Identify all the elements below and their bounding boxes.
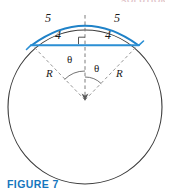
- right-angle-marker: [79, 37, 86, 44]
- geometry-diagram: [0, 0, 170, 194]
- figure-container: SOLUTION 5 5 4 4 θ θ R R FIGURE 7: [0, 0, 170, 194]
- main-circle: [8, 30, 162, 184]
- angle-arc-left: [65, 71, 86, 80]
- radius-line-right: [85, 45, 138, 100]
- chord-label-left: 4: [55, 29, 61, 41]
- theta-label-left: θ: [67, 54, 72, 65]
- chord-endpoint-tick-left: [27, 45, 32, 49]
- angle-arc-right: [85, 77, 101, 84]
- theta-label-right: θ: [94, 63, 99, 74]
- radius-label-right: R: [116, 68, 123, 79]
- chord-label-right: 4: [105, 29, 111, 41]
- radius-label-left: R: [46, 68, 53, 79]
- arc-label-right: 5: [114, 12, 120, 24]
- chord-endpoint-tick-right: [139, 41, 144, 45]
- arc-label-left: 5: [45, 12, 51, 24]
- figure-caption: FIGURE 7: [7, 178, 59, 190]
- radius-line-left: [32, 45, 85, 100]
